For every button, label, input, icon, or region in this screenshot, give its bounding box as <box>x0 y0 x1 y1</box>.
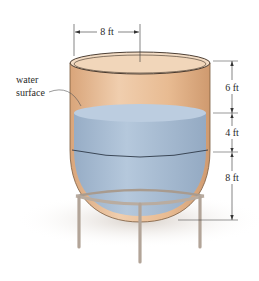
water-surface-label-line1: water <box>16 74 39 85</box>
dim-arrow-upper-top <box>230 61 233 66</box>
dim-label-upper: 6 ft <box>225 82 239 93</box>
radius-label: 8 ft <box>100 26 114 37</box>
radius-arrow-right <box>134 30 139 33</box>
dim-arrow-middle-bottom <box>230 148 233 152</box>
radius-arrow-left <box>75 30 80 33</box>
dim-arrow-middle-top <box>230 114 233 118</box>
water-surface-label-line2: surface <box>16 87 45 98</box>
dim-label-lower: 8 ft <box>225 172 239 183</box>
dim-label-middle: 4 ft <box>225 127 239 138</box>
water-surface <box>74 104 206 122</box>
dim-arrow-upper-bottom <box>230 108 233 113</box>
dim-arrow-lower-top <box>230 153 233 157</box>
tank-diagram: 8 ft water surface 6 ft 4 ft 8 ft <box>0 0 259 281</box>
